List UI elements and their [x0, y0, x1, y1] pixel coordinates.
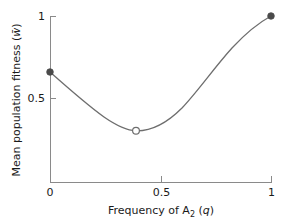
chart-background [0, 0, 288, 224]
x-tick-label-0-5: 0.5 [153, 186, 171, 199]
y-tick-label-0-5: 0.5 [28, 92, 46, 105]
x-axis-title-main: Frequency of A [108, 204, 190, 217]
x-axis-title: Frequency of A2 (q) [108, 204, 214, 219]
y-axis-title: Mean population fitness (w̄) [10, 23, 23, 176]
x-axis-title-symbol: q [203, 204, 210, 217]
chart-canvas: 1 0.5 0 0.5 1 Mean population fitness (w… [0, 0, 288, 224]
y-axis-title-symbol: w̄ [10, 28, 23, 37]
x-axis-title-tail: ( [195, 204, 203, 217]
x-tick-label-0: 0 [47, 186, 54, 199]
x-tick-label-1: 1 [268, 186, 275, 199]
svg-text:Mean population fitness (w̄): Mean population fitness (w̄) [10, 23, 23, 176]
marker-minimum-equilibrium [133, 127, 140, 134]
y-axis-title-close: ) [10, 23, 23, 27]
marker-left-endpoint [47, 69, 54, 76]
x-axis-title-close: ) [210, 204, 214, 217]
y-tick-label-1: 1 [38, 10, 45, 23]
marker-right-endpoint [268, 13, 275, 20]
fitness-curve-figure: 1 0.5 0 0.5 1 Mean population fitness (w… [0, 0, 288, 224]
y-axis-title-main: Mean population fitness ( [10, 37, 23, 177]
